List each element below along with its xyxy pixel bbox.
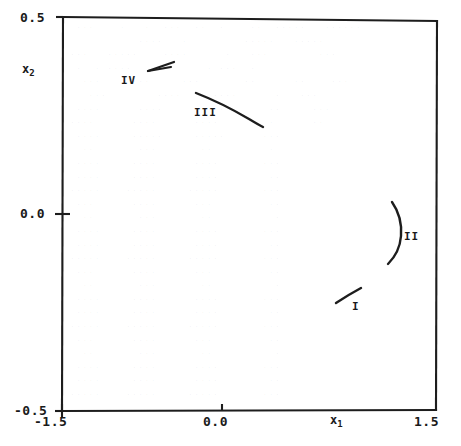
curve-label-i: I	[352, 300, 360, 313]
axis-frame	[62, 17, 437, 411]
x-axis-mid-tick-label: 0.0	[203, 414, 228, 429]
curve-label-iv: IV	[121, 74, 136, 87]
y-axis-max-tick-label: 0.5	[20, 10, 45, 25]
y-axis-mid-tick-label: 0.0	[20, 206, 45, 221]
y-axis-title: x2	[22, 62, 35, 78]
x-axis-title-sub: 1	[337, 419, 342, 429]
curve-II	[388, 202, 401, 264]
curve-label-ii: II	[404, 230, 419, 243]
curve-label-iii: III	[194, 106, 217, 119]
x-axis-max-tick-label: 1.5	[414, 414, 439, 429]
x-axis-min-tick-label: -1.5	[34, 414, 67, 429]
plot-figure	[0, 0, 461, 446]
x-axis-title: x1	[330, 413, 343, 429]
curve-IV	[148, 62, 174, 71]
axis-ticks	[55, 17, 222, 418]
y-axis-title-sub: 2	[29, 68, 34, 78]
